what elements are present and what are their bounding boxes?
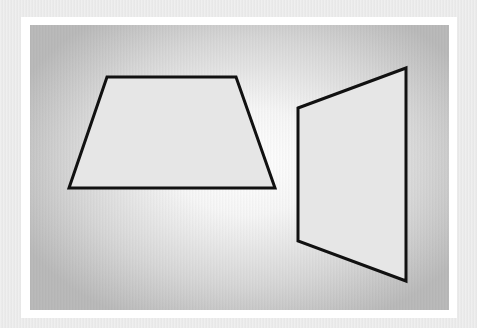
skewed-quadrilateral-shape xyxy=(298,68,406,281)
trapezoid-shape xyxy=(69,77,275,188)
shapes-canvas xyxy=(0,0,477,328)
